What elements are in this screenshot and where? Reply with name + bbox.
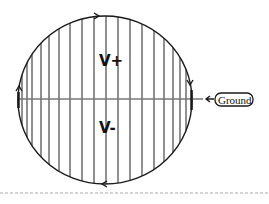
- label-v-minus: V-: [99, 119, 116, 137]
- ground-label: Ground: [218, 94, 252, 106]
- voltage-field-diagram: V+ V- Ground: [0, 0, 269, 204]
- vertical-field-lines: [22, 0, 186, 204]
- ground-arrow-icon: [206, 96, 214, 102]
- boundary-circle: [18, 16, 192, 184]
- label-v-plus: V+: [99, 52, 123, 70]
